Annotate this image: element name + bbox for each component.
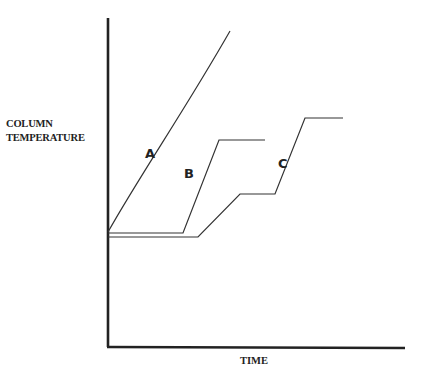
curve-b: [108, 140, 265, 233]
curve-a-label: A: [145, 146, 155, 161]
curve-a: [108, 31, 230, 232]
curve-b-label: B: [184, 166, 194, 181]
curve-c-label: C: [278, 156, 288, 171]
temperature-program-diagram: A B C: [0, 0, 430, 385]
x-axis: [107, 347, 405, 348]
curve-c: [108, 118, 343, 237]
